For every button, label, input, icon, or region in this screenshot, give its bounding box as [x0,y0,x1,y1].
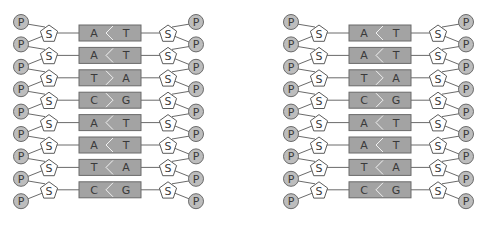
base-right: T [122,27,130,40]
phosphate-left-6: P [284,149,299,164]
sugar-label: S [46,50,53,63]
sugar-label: S [316,162,323,175]
base-right: T [122,49,130,62]
base-left: A [360,27,368,40]
base-pair-7: CG [349,182,411,198]
sugar-left-6: S [310,159,327,175]
phosphate-label: P [463,106,470,119]
base-right: G [122,184,131,197]
phosphate-left-4: P [284,104,299,119]
sugar-left-1: S [40,47,57,63]
sugar-label: S [435,162,442,175]
sugar-label: S [46,185,53,198]
phosphate-left-1: P [284,37,299,52]
phosphate-left-3: P [284,82,299,97]
base-pair-6: TA [349,159,411,175]
phosphate-right-6: P [189,149,204,164]
base-left: A [360,117,368,130]
sugar-label: S [46,162,53,175]
dna-ladder-left-svg: PPPPPPPPPPPPPPPPPPSSATSSATSSTASSCGSSATSS… [0,0,243,227]
base-right: T [122,117,130,130]
phosphate-label: P [193,106,200,119]
phosphate-label: P [463,38,470,51]
base-left: T [360,161,368,174]
phosphate-label: P [18,150,25,163]
sugar-label: S [435,50,442,63]
phosphate-label: P [193,195,200,208]
sugar-label: S [316,28,323,41]
base-pair-2: TA [79,70,141,86]
base-left: A [90,27,98,40]
phosphate-left-0: P [14,15,29,30]
phosphate-right-2: P [189,59,204,74]
base-pair-6: TA [79,159,141,175]
sugar-left-7: S [40,182,57,198]
phosphate-left-3: P [14,82,29,97]
sugar-left-0: S [40,25,57,41]
phosphate-label: P [463,128,470,141]
sugar-left-1: S [310,47,327,63]
base-pair-box [349,137,411,153]
phosphate-label: P [288,106,295,119]
sugar-right-5: S [429,137,446,153]
phosphate-right-3: P [459,82,474,97]
phosphate-label: P [463,150,470,163]
phosphate-label: P [193,128,200,141]
sugar-left-4: S [310,115,327,131]
base-right: T [392,49,400,62]
dna-ladder-right-svg: PPPPPPPPPPPPPPPPPPSSATSSATSSTASSCGSSATSS… [270,0,486,227]
sugar-label: S [46,95,53,108]
sugar-left-5: S [40,137,57,153]
sugar-left-6: S [40,159,57,175]
base-pair-3: CG [349,92,411,108]
phosphate-label: P [193,61,200,74]
dna-ladder-right: PPPPPPPPPPPPPPPPPPSSATSSATSSTASSCGSSATSS… [270,0,486,227]
phosphate-right-8: P [189,194,204,209]
sugar-label: S [165,162,172,175]
phosphate-right-3: P [189,82,204,97]
base-right: T [122,139,130,152]
base-left: C [360,94,368,107]
phosphate-label: P [18,106,25,119]
sugar-right-1: S [159,47,176,63]
sugar-label: S [316,118,323,131]
base-pair-box [349,47,411,63]
sugar-label: S [316,95,323,108]
sugar-label: S [165,95,172,108]
sugar-right-0: S [429,25,446,41]
base-left: C [360,184,368,197]
sugar-right-3: S [159,92,176,108]
base-right: G [392,184,401,197]
base-pair-4: AT [349,115,411,131]
phosphate-left-7: P [284,171,299,186]
base-pair-1: AT [349,47,411,63]
phosphate-right-4: P [459,104,474,119]
sugar-left-2: S [310,70,327,86]
phosphate-left-5: P [284,127,299,142]
sugar-left-3: S [310,92,327,108]
phosphate-label: P [18,173,25,186]
phosphate-left-4: P [14,104,29,119]
base-pair-box [349,70,411,86]
sugar-label: S [435,118,442,131]
phosphate-label: P [463,173,470,186]
base-right: A [392,161,400,174]
phosphate-label: P [288,150,295,163]
phosphate-left-2: P [14,59,29,74]
base-left: A [360,139,368,152]
sugar-right-7: S [159,182,176,198]
sugar-label: S [435,185,442,198]
phosphate-left-8: P [14,194,29,209]
sugar-left-7: S [310,182,327,198]
base-left: T [90,72,98,85]
base-right: G [392,94,401,107]
base-pair-1: AT [79,47,141,63]
sugar-right-2: S [159,70,176,86]
phosphate-right-4: P [189,104,204,119]
phosphate-label: P [193,83,200,96]
sugar-label: S [316,73,323,86]
sugar-label: S [435,28,442,41]
phosphate-left-0: P [284,15,299,30]
phosphate-right-0: P [459,15,474,30]
sugar-label: S [165,73,172,86]
